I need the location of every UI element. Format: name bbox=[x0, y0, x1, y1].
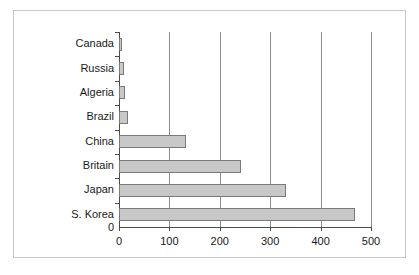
x-tick-label-200: 200 bbox=[200, 235, 240, 247]
x-tick-label-400: 400 bbox=[301, 235, 341, 247]
x-tick-mark-200 bbox=[220, 227, 221, 231]
x-tick-label-0: 0 bbox=[99, 235, 139, 247]
x-tick-mark-300 bbox=[270, 227, 271, 231]
bar-brazil bbox=[119, 111, 128, 124]
bar-s-korea bbox=[119, 208, 355, 221]
chart-figure: CanadaRussiaAlgeriaBrazilChinaBritainJap… bbox=[13, 10, 406, 258]
category-label-brazil: Brazil bbox=[14, 111, 114, 122]
category-label-britain: Britain bbox=[14, 160, 114, 171]
x-tick-mark-100 bbox=[169, 227, 170, 231]
category-label-s-korea: S. Korea bbox=[14, 209, 114, 220]
x-tick-label-300: 300 bbox=[250, 235, 290, 247]
bar-canada bbox=[119, 38, 122, 51]
plot-area bbox=[119, 32, 371, 227]
category-label-russia: Russia bbox=[14, 63, 114, 74]
x-tick-label-500: 500 bbox=[351, 235, 391, 247]
category-label-column: CanadaRussiaAlgeriaBrazilChinaBritainJap… bbox=[14, 32, 114, 227]
bar-britain bbox=[119, 160, 241, 173]
x-tick-mark-400 bbox=[321, 227, 322, 231]
bar-japan bbox=[119, 184, 286, 197]
bar-china bbox=[119, 135, 186, 148]
x-axis-line bbox=[119, 227, 372, 228]
category-label-algeria: Algeria bbox=[14, 87, 114, 98]
category-label-china: China bbox=[14, 136, 114, 147]
bar-russia bbox=[119, 62, 124, 75]
x-tick-mark-0 bbox=[119, 227, 120, 231]
category-label-canada: Canada bbox=[14, 38, 114, 49]
y-axis-origin-label: 0 bbox=[14, 222, 114, 233]
x-tick-mark-500 bbox=[371, 227, 372, 231]
x-axis-tick-labels: 0100200300400500 bbox=[119, 235, 371, 251]
x-tick-label-100: 100 bbox=[149, 235, 189, 247]
category-label-japan: Japan bbox=[14, 184, 114, 195]
gridline-500 bbox=[371, 32, 372, 227]
bar-algeria bbox=[119, 86, 125, 99]
